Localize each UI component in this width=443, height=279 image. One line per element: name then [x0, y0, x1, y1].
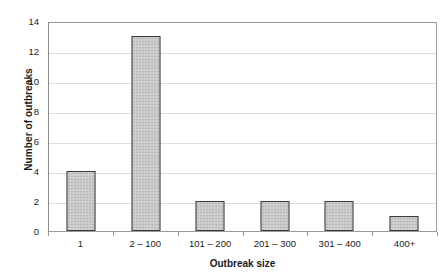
y-axis-tick-label: 8 — [34, 107, 39, 117]
y-axis-tick-label: 2 — [34, 197, 39, 207]
y-axis-tick-label: 0 — [34, 227, 39, 237]
bar-slot — [372, 23, 437, 231]
y-axis-tick-label: 10 — [28, 77, 39, 87]
bar-chart-figure: Number of outbreaks 02468101214 12 – 100… — [0, 0, 443, 279]
y-axis-tick-label: 12 — [28, 47, 39, 57]
bar-slot — [49, 23, 114, 231]
bar[interactable] — [389, 216, 418, 231]
x-axis-tick-label: 301 – 400 — [307, 238, 372, 249]
y-axis-tick-label: 14 — [28, 17, 39, 27]
bar-slot — [178, 23, 243, 231]
x-axis-title: Outbreak size — [48, 258, 437, 269]
bar-slot — [114, 23, 179, 231]
bar[interactable] — [131, 36, 160, 231]
bar[interactable] — [67, 171, 96, 231]
x-axis-tick — [113, 232, 114, 236]
x-axis-tick — [437, 232, 438, 236]
bar[interactable] — [260, 201, 289, 231]
bar-slot — [243, 23, 308, 231]
x-axis-ticks — [48, 232, 437, 237]
bar-series — [49, 23, 436, 231]
x-axis-tick — [372, 232, 373, 236]
x-axis-tick — [243, 232, 244, 236]
bar[interactable] — [196, 201, 225, 231]
x-axis-tick-label: 400+ — [372, 238, 437, 249]
x-axis-tick-label: 1 — [48, 238, 113, 249]
x-axis-tick-label: 101 – 200 — [178, 238, 243, 249]
y-axis-tick-label: 4 — [34, 167, 39, 177]
y-axis-tick-labels: 02468101214 — [0, 0, 46, 279]
x-axis-tick — [307, 232, 308, 236]
y-axis-tick-label: 6 — [34, 137, 39, 147]
x-axis-tick-label: 201 – 300 — [242, 238, 307, 249]
bar[interactable] — [325, 201, 354, 231]
plot-area — [48, 22, 437, 232]
x-axis-tick-labels: 12 – 100101 – 200201 – 300301 – 400400+ — [48, 238, 437, 249]
bar-slot — [307, 23, 372, 231]
x-axis-tick — [48, 232, 49, 236]
x-axis-tick — [178, 232, 179, 236]
x-axis-tick-label: 2 – 100 — [113, 238, 178, 249]
